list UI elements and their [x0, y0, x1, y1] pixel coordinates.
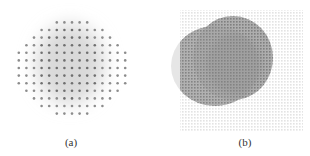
- grid-dot: [33, 82, 36, 85]
- grid-dot: [56, 44, 59, 47]
- grid-dot: [86, 97, 89, 100]
- grid-dot: [86, 90, 89, 93]
- grid-dot: [101, 67, 104, 70]
- grid-dot: [18, 67, 21, 70]
- grid-dot: [63, 82, 66, 85]
- grid-dot: [40, 74, 43, 77]
- grid-dot: [25, 74, 28, 77]
- grid-dot: [101, 59, 104, 62]
- grid-dot: [78, 29, 81, 32]
- figure-panel-a: (a): [0, 0, 155, 156]
- grid-dot: [124, 82, 127, 85]
- grid-dot: [71, 59, 74, 62]
- grid-dot: [33, 59, 36, 62]
- grid-dot: [63, 29, 66, 32]
- grid-dot: [78, 105, 81, 108]
- grid-dot: [40, 97, 43, 100]
- caption-a: (a): [51, 136, 91, 148]
- grid-dot: [56, 52, 59, 55]
- grid-dot: [78, 67, 81, 70]
- grid-dot: [94, 52, 97, 55]
- grid-dot: [33, 44, 36, 47]
- grid-dot: [78, 112, 81, 115]
- grid-dot: [25, 90, 28, 93]
- grid-dot: [71, 90, 74, 93]
- grid-dot: [56, 97, 59, 100]
- grid-dot: [101, 97, 104, 100]
- grid-dot: [78, 36, 81, 39]
- grid-dot: [25, 67, 28, 70]
- grid-dot: [109, 44, 112, 47]
- grid-dot: [48, 82, 51, 85]
- grid-dot: [78, 74, 81, 77]
- grid-dot: [71, 112, 74, 115]
- grid-dot: [18, 59, 21, 62]
- grid-dot: [86, 36, 89, 39]
- grid-dot: [116, 52, 119, 55]
- grid-dot: [40, 82, 43, 85]
- grid-dot: [63, 97, 66, 100]
- grid-dot: [71, 82, 74, 85]
- grid-dot: [86, 105, 89, 108]
- grid-dot: [109, 97, 112, 100]
- grid-dot: [33, 90, 36, 93]
- grid-dot: [71, 29, 74, 32]
- grid-dot: [56, 36, 59, 39]
- grid-dot: [71, 21, 74, 24]
- grid-dot: [25, 59, 28, 62]
- grid-dot: [63, 67, 66, 70]
- grid-dot: [109, 74, 112, 77]
- grid-dot: [86, 74, 89, 77]
- grid-dot: [101, 82, 104, 85]
- grid-dot: [56, 112, 59, 115]
- grid-dot: [25, 52, 28, 55]
- grid-dot: [40, 90, 43, 93]
- grid-dot: [63, 21, 66, 24]
- grid-dot: [101, 74, 104, 77]
- grid-dot: [116, 67, 119, 70]
- grid-dot: [33, 74, 36, 77]
- grid-dot: [40, 29, 43, 32]
- grid-dot: [124, 74, 127, 77]
- grid-dot: [94, 90, 97, 93]
- grid-dot: [71, 36, 74, 39]
- grid-dot: [48, 59, 51, 62]
- grid-dot: [94, 44, 97, 47]
- grid-dot: [101, 36, 104, 39]
- grid-dot: [116, 90, 119, 93]
- grid-dot: [71, 52, 74, 55]
- grid-dot: [18, 82, 21, 85]
- grid-dot: [63, 112, 66, 115]
- overlap-region: [207, 34, 263, 94]
- grid-dot: [94, 105, 97, 108]
- grid-dot: [48, 44, 51, 47]
- grid-dot: [48, 97, 51, 100]
- grid-dot: [116, 82, 119, 85]
- grid-dot: [78, 21, 81, 24]
- grid-dot: [94, 97, 97, 100]
- grid-dot: [63, 90, 66, 93]
- grid-dot: [63, 105, 66, 108]
- grid-dot: [48, 74, 51, 77]
- grid-dot: [33, 97, 36, 100]
- grid-dot: [56, 29, 59, 32]
- grid-dot: [63, 59, 66, 62]
- grid-dot: [40, 67, 43, 70]
- grid-dot: [63, 52, 66, 55]
- grid-dot: [40, 36, 43, 39]
- grid-dot: [86, 21, 89, 24]
- grid-dot: [63, 44, 66, 47]
- grid-dot: [109, 59, 112, 62]
- grid-dot: [63, 74, 66, 77]
- grid-dot: [86, 67, 89, 70]
- grid-dot: [33, 67, 36, 70]
- grid-dot: [101, 105, 104, 108]
- grid-dot: [56, 21, 59, 24]
- grid-dot: [56, 90, 59, 93]
- grid-dot: [86, 112, 89, 115]
- grid-dot: [109, 52, 112, 55]
- grid-dot: [33, 36, 36, 39]
- grid-dot: [109, 67, 112, 70]
- grid-dot: [71, 67, 74, 70]
- grid-dot: [101, 52, 104, 55]
